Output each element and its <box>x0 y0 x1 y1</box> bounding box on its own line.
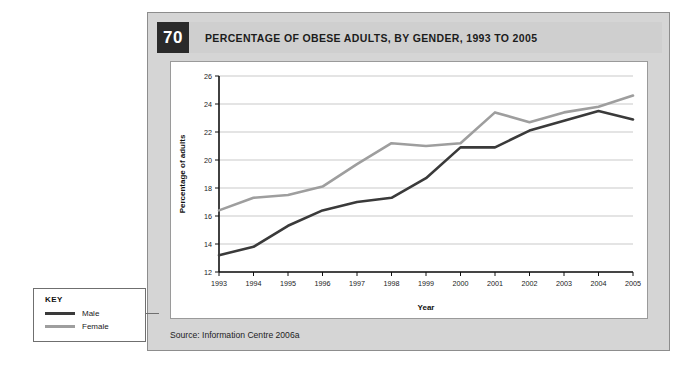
x-tick-label: 2005 <box>625 279 641 288</box>
axes-group <box>215 76 633 276</box>
key-item-label: Female <box>82 322 109 331</box>
data-series-group <box>219 96 633 256</box>
x-tick-label: 1993 <box>211 279 227 288</box>
figure-number-badge: 70 <box>157 22 189 53</box>
x-tick-label: 1999 <box>418 279 434 288</box>
x-tick-label: 1996 <box>315 279 331 288</box>
key-item-female: Female <box>45 322 145 331</box>
x-tick-label: 1995 <box>280 279 296 288</box>
y-tick-label: 14 <box>204 240 212 249</box>
y-tick-label: 26 <box>204 72 212 81</box>
x-tick-label: 2003 <box>556 279 572 288</box>
x-tick-label: 1994 <box>246 279 262 288</box>
line-chart-svg: 1214161820222426 19931994199519961997199… <box>171 62 647 318</box>
figure-panel: 70 PERCENTAGE OF OBESE ADULTS, BY GENDER… <box>147 12 670 351</box>
y-tick-label: 20 <box>204 156 212 165</box>
y-tick-label: 24 <box>204 100 212 109</box>
y-tick-label: 12 <box>204 268 212 277</box>
series-line-male <box>219 111 633 255</box>
female-line-swatch <box>45 325 75 328</box>
figure-header: 70 PERCENTAGE OF OBESE ADULTS, BY GENDER… <box>157 22 662 53</box>
chart-card: 1214161820222426 19931994199519961997199… <box>170 61 648 319</box>
key-connector-line <box>146 313 159 314</box>
source-note: Source: Information Centre 2006a <box>170 330 299 340</box>
x-tick-label: 1998 <box>384 279 400 288</box>
key-item-label: Male <box>82 309 99 318</box>
y-tick-label: 18 <box>204 184 212 193</box>
y-tick-label: 22 <box>204 128 212 137</box>
key-item-male: Male <box>45 309 145 318</box>
key-legend-box: KEY Male Female <box>33 288 146 342</box>
gridlines-group <box>219 76 633 272</box>
x-tick-label: 2001 <box>487 279 503 288</box>
x-tick-label: 1997 <box>349 279 365 288</box>
key-heading: KEY <box>45 295 145 304</box>
male-line-swatch <box>45 312 75 316</box>
x-axis-title: Year <box>418 303 435 312</box>
figure-title: PERCENTAGE OF OBESE ADULTS, BY GENDER, 1… <box>205 32 537 44</box>
x-tick-label: 2002 <box>522 279 538 288</box>
y-axis-title: Percentage of adults <box>178 134 187 213</box>
x-tick-label: 2000 <box>453 279 469 288</box>
x-tick-label: 2004 <box>591 279 607 288</box>
series-line-female <box>219 96 633 211</box>
x-tick-labels: 1993199419951996199719981999200020012002… <box>211 279 641 288</box>
plot-area: 1214161820222426 19931994199519961997199… <box>171 62 647 318</box>
y-tick-label: 16 <box>204 212 212 221</box>
y-tick-labels: 1214161820222426 <box>204 72 212 277</box>
